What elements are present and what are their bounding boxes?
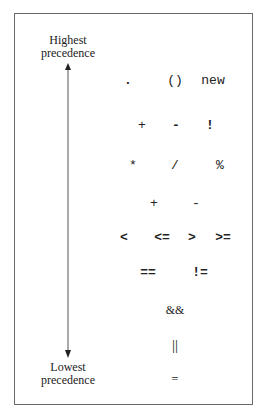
op-parens: () (167, 73, 183, 88)
op-less-equal: <= (154, 230, 170, 245)
op-equal: == (140, 265, 156, 280)
op-not-equal: != (192, 265, 208, 280)
op-unary-plus: + (138, 118, 146, 133)
op-assign: = (172, 372, 179, 387)
precedence-arrow-icon (0, 0, 267, 418)
op-not: ! (206, 118, 214, 133)
op-less-than: < (120, 230, 128, 245)
op-add: + (150, 196, 158, 211)
op-dot: . (124, 73, 132, 88)
op-or: || (172, 337, 178, 354)
precedence-word-bottom: precedence (23, 374, 113, 387)
op-subtract: - (192, 196, 200, 211)
op-and: && (166, 303, 185, 318)
op-greater-equal: >= (215, 230, 231, 245)
op-greater-than: > (188, 230, 196, 245)
op-divide: / (171, 158, 179, 173)
lowest-precedence-label: Lowest precedence (23, 361, 113, 387)
op-new: new (201, 73, 224, 88)
op-multiply: * (129, 158, 137, 173)
op-unary-minus: - (172, 118, 180, 133)
op-modulo: % (216, 158, 224, 173)
